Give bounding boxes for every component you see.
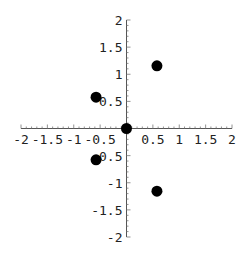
x-tick-label: 1 bbox=[175, 132, 183, 147]
scatter-plot: -2-1.5-1-0.50.511.5221.510.5-0.5-1-1.5-2 bbox=[0, 0, 246, 258]
y-tick-label: 2 bbox=[115, 13, 123, 28]
x-tick-label: 0.5 bbox=[141, 132, 164, 147]
x-tick-label: -1.5 bbox=[32, 132, 63, 147]
x-tick-label: -0.5 bbox=[84, 132, 115, 147]
data-point bbox=[121, 123, 132, 134]
x-tick-label: -1 bbox=[66, 132, 82, 147]
y-tick-label: 1.5 bbox=[99, 40, 122, 55]
y-tick-label: -2 bbox=[107, 230, 123, 245]
x-tick-label: 1.5 bbox=[194, 132, 217, 147]
data-point bbox=[91, 154, 102, 165]
data-point bbox=[151, 60, 162, 71]
x-tick-label: 2 bbox=[228, 132, 236, 147]
y-tick-label: 0.5 bbox=[99, 94, 122, 109]
data-point bbox=[151, 186, 162, 197]
y-tick-label: -1 bbox=[107, 176, 123, 191]
x-tick-label: -2 bbox=[13, 132, 29, 147]
y-tick-label: 1 bbox=[115, 67, 123, 82]
y-tick-label: -1.5 bbox=[91, 203, 122, 218]
data-point bbox=[91, 92, 102, 103]
